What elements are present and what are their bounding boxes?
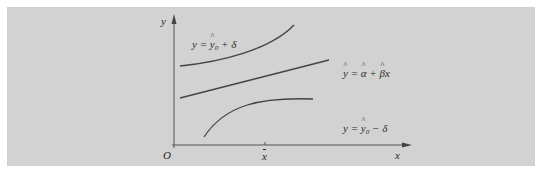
x-axis-label: x — [395, 150, 400, 161]
upper-band-label: y = y0 + δ — [192, 39, 236, 52]
x-axis-arrow-icon — [402, 143, 412, 148]
diagram-canvas — [0, 0, 541, 175]
lower-band-curve — [204, 99, 313, 137]
regression-line — [180, 60, 329, 98]
y-axis-label: y — [161, 16, 166, 27]
lower-band-label: y = y0 − δ — [343, 123, 387, 136]
x-bar-symbol: x — [262, 151, 267, 162]
regression-line-label: y = α + βx — [343, 68, 390, 79]
y-axis-arrow-icon — [172, 14, 177, 24]
x-bar-label: x — [262, 151, 267, 162]
origin-label: O — [163, 150, 171, 161]
